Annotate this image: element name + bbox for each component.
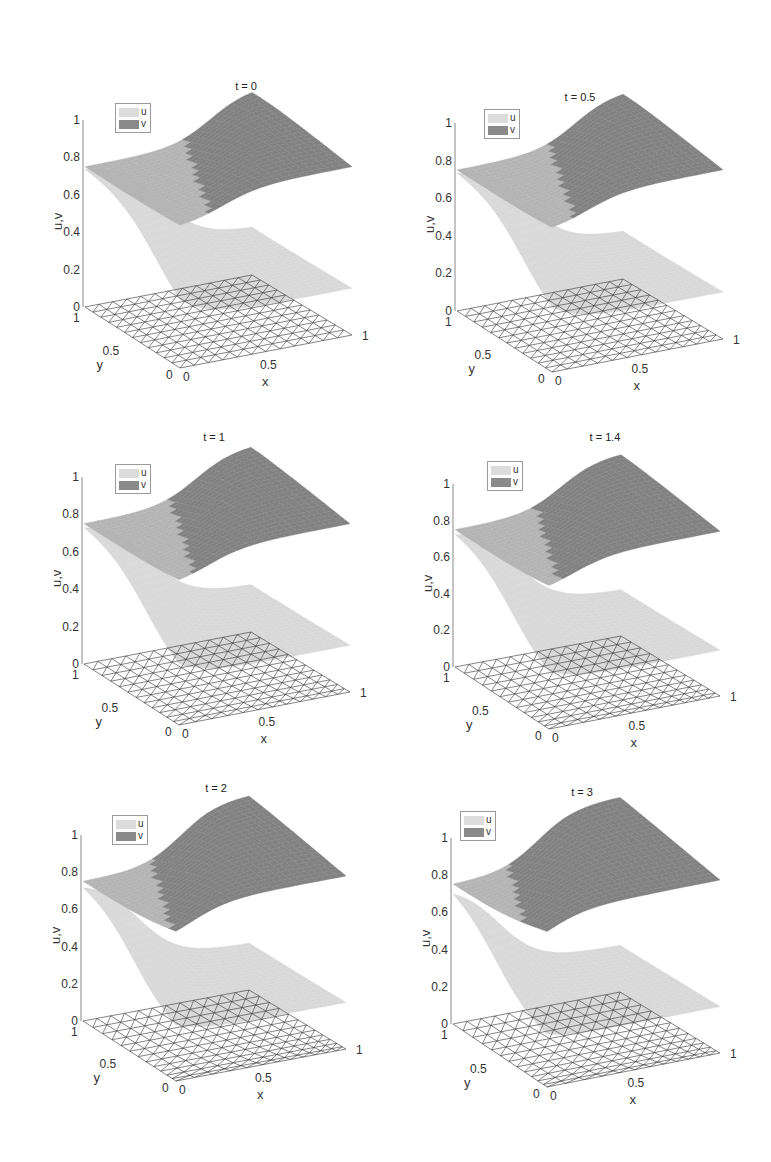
subplot-title: t = 3 [571,786,593,798]
x-tick-label: 1 [730,1047,737,1061]
x-tick-label: 0.5 [628,1076,645,1090]
legend-swatch-u [464,816,484,825]
x-axis-label: x [630,1092,637,1107]
y-tick-label: 1 [441,1028,448,1042]
x-tick-label: 0 [550,1089,557,1103]
z-tick-label: 0.2 [431,980,448,994]
z-tick-label: 0.8 [431,868,448,882]
z-tick-label: 0.4 [431,943,448,957]
legend-label: v [486,827,491,837]
legend-label: u [486,815,492,825]
y-tick-label: 0.5 [470,1062,487,1076]
surface-plot-svg [0,0,771,1162]
y-tick-label: 0 [533,1087,540,1101]
legend-swatch-v [464,828,484,837]
z-axis-label: u,v [418,930,433,947]
y-axis-label: y [464,1075,471,1090]
z-tick-label: 1 [441,831,448,845]
legend-entry-v: v [464,827,491,837]
legend: uv [460,811,496,841]
figure: t = 000.20.40.60.81u,v10.50y00.51xuvt = … [0,0,771,1162]
legend-entry-u: u [464,815,492,825]
z-tick-label: 0.6 [431,905,448,919]
subplot-panel: t = 300.20.40.60.81u,v10.50y00.51xuv [0,0,380,360]
